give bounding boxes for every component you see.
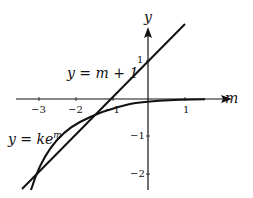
line-curve — [22, 24, 185, 189]
x-tick-label: −1 — [105, 105, 120, 115]
y-tick-label: −2 — [130, 169, 145, 179]
exponential-equation-base: y = ke — [8, 131, 53, 147]
x-tick-label: −2 — [68, 105, 83, 115]
x-tick-label: −3 — [31, 105, 46, 115]
x-axis-label: m — [225, 91, 238, 105]
exponential-equation-label: y = kem — [8, 131, 62, 146]
diagram-canvas: m y −3 −2 −1 1 1 −1 −2 y = m + 1 y = kem — [0, 0, 253, 198]
plot-svg — [0, 0, 253, 198]
y-tick-label: 1 — [137, 55, 143, 65]
y-axis-label: y — [144, 10, 152, 24]
y-tick-label: −1 — [130, 131, 145, 141]
x-tick-label: 1 — [183, 105, 189, 115]
line-equation-label: y = m + 1 — [67, 66, 138, 80]
exponential-equation-exponent: m — [53, 130, 62, 140]
